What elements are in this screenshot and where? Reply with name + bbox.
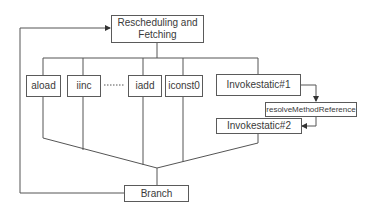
node-label: iconst0: [168, 80, 200, 92]
iadd-node: iadd: [128, 75, 162, 97]
iconst0-node: iconst0: [165, 75, 203, 97]
node-label: iinc: [76, 80, 91, 92]
resolve-method-reference-node: resolveMethodReference: [265, 102, 357, 117]
node-label-line1: Rescheduling and: [117, 17, 197, 29]
node-label: Invokestatic#2: [227, 120, 291, 132]
node-label: Invokestatic#1: [227, 79, 291, 91]
invokestatic2-node: Invokestatic#2: [216, 118, 302, 134]
invokestatic1-node: Invokestatic#1: [216, 74, 301, 96]
node-label-line2: Fetching: [138, 29, 176, 41]
rescheduling-fetching-node: Rescheduling and Fetching: [111, 15, 204, 43]
branch-node: Branch: [124, 185, 189, 202]
node-label: iadd: [136, 80, 155, 92]
node-label: Branch: [141, 188, 173, 200]
node-label: aload: [31, 80, 55, 92]
aload-node: aload: [26, 75, 61, 97]
iinc-node: iinc: [67, 75, 101, 97]
node-label: resolveMethodReference: [266, 104, 355, 116]
